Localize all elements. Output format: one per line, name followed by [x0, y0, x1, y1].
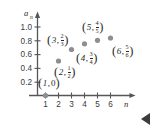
y-axis-label-subscript: n — [30, 14, 33, 20]
y-axis-label: a — [24, 8, 28, 18]
left-triangle-icon — [141, 113, 150, 125]
data-point — [82, 41, 87, 46]
paren-close: ) — [56, 78, 60, 88]
data-point — [56, 58, 61, 63]
paren-close: ) — [99, 22, 103, 32]
data-point — [108, 35, 113, 40]
paren-close: ) — [64, 35, 68, 45]
x-tick-label-2: 2 — [56, 100, 61, 109]
paren-close: ) — [93, 53, 97, 63]
y-tick-label-0.6: 0.6 — [21, 50, 33, 59]
y-tick-label-0.8: 0.8 — [21, 37, 33, 46]
paren-close: ) — [129, 46, 133, 56]
data-point — [43, 93, 48, 98]
y-tick-label-0.4: 0.4 — [21, 64, 33, 73]
point-label-1: ( 1 , 0 ) — [38, 78, 60, 88]
x-tick-label-3: 3 — [69, 100, 74, 109]
data-point — [69, 47, 74, 52]
x-axis-arrow — [130, 93, 136, 98]
y-tick-label-1.0: 1.0 — [21, 23, 33, 32]
y-axis-arrow — [35, 12, 40, 19]
x-tick-label-4: 4 — [82, 100, 87, 109]
point-label-3: ( 3 , 2 3 ) — [47, 33, 68, 47]
x-tick-label-5: 5 — [95, 100, 100, 109]
paren-close: ) — [71, 67, 75, 77]
data-point — [95, 38, 100, 43]
point-label-6: ( 6 , 5 6 ) — [112, 44, 133, 58]
x-tick-label-6: 6 — [108, 100, 113, 109]
x-axis-label: n — [124, 99, 128, 109]
point-label-4: ( 4 , 3 4 ) — [76, 51, 97, 65]
point-label-5: ( 5 , 4 5 ) — [82, 20, 103, 34]
y-tick-label-0.2: 0.2 — [21, 78, 33, 87]
scatter-plot-canvas: 0.2 0.4 0.6 0.8 1.0 1 2 3 4 5 6 a n n — [0, 0, 155, 131]
x-tick-label-1: 1 — [43, 100, 48, 109]
point-label-2: ( 2 , 1 2 ) — [54, 65, 75, 79]
